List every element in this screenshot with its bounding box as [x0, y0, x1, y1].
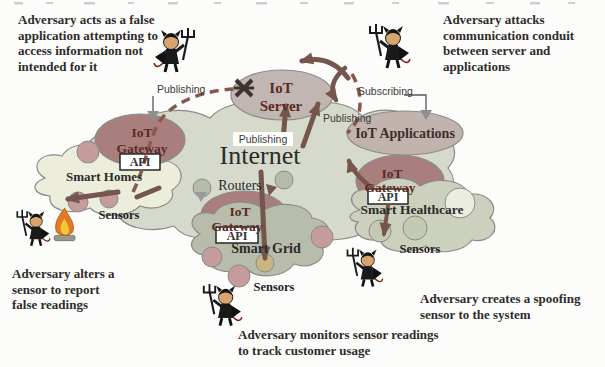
iot-applications-label: IoT Applications — [355, 126, 455, 141]
cropped-caption-fragments — [14, 2, 575, 5]
smart-healthcare-label: Smart Healthcare — [361, 202, 464, 217]
api-left-label: API — [130, 155, 151, 169]
flame-icon — [54, 208, 75, 241]
sensor-circle — [369, 220, 391, 242]
sensor-circle — [202, 247, 222, 267]
gateway-right-label-line1: IoT — [381, 166, 402, 181]
figure-canvas: Publishing Publishing Publishing Subscri… — [0, 0, 605, 367]
devil-adversary-icon-bottom-center — [203, 284, 242, 326]
sensor-circle — [228, 265, 250, 287]
annotation-alter-sensor: Adversary alters a sensor to report fals… — [12, 266, 124, 313]
gateway-center-label-line1: IoT — [229, 204, 250, 219]
sensor-circle — [311, 226, 333, 248]
iot-server-label-line1: IoT — [269, 80, 292, 96]
router-circle — [275, 171, 293, 189]
sensor-circle — [77, 141, 99, 163]
routers-label: Routers — [218, 178, 262, 193]
publishing-right-label: Publishing — [323, 112, 372, 124]
publishing-left-label: Publishing — [157, 83, 206, 95]
devil-adversary-icon-top-right — [369, 24, 410, 68]
smart-grid-label: Smart Grid — [231, 241, 301, 256]
subscribing-label: Subscribing — [358, 85, 413, 97]
annotation-monitor-readings: Adversary monitors sensor readings to tr… — [238, 327, 450, 358]
iot-server-label-line2: Server — [260, 98, 303, 114]
annotation-spoofing-sensor: Adversary creates a spoofing sensor to t… — [420, 291, 602, 322]
smart-homes-label: Smart Homes — [66, 169, 142, 184]
sensors-label-right: Sensors — [400, 242, 441, 256]
sensors-label-left: Sensors — [99, 208, 140, 222]
devil-adversary-icon-bottom-right — [347, 248, 383, 287]
internet-label: Internet — [220, 141, 302, 170]
annotation-false-application: Adversary acts as a false application at… — [18, 12, 176, 74]
sensors-label-center: Sensors — [254, 280, 295, 294]
subscribing-connector — [404, 95, 426, 110]
gateway-left-label-line2: Gateway — [117, 141, 168, 156]
devil-adversary-icon-bottom-left — [16, 210, 50, 246]
annotation-attack-conduit: Adversary attacks communication conduit … — [443, 12, 595, 74]
sensor-circle — [403, 216, 427, 240]
gateway-left-label-line1: IoT — [131, 125, 152, 140]
